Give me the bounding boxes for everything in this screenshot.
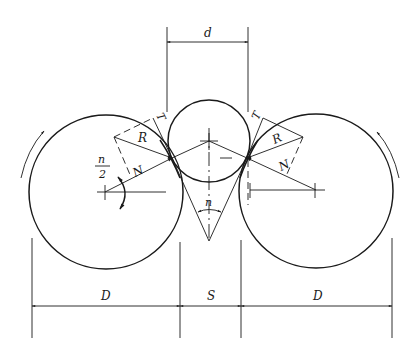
rotation-arrow-right-icon <box>377 132 399 178</box>
center-to-contact-lines <box>172 141 247 158</box>
label-n-half-num: n <box>98 153 105 166</box>
label-R-left: R <box>137 131 147 145</box>
label-D-left: D <box>100 289 111 303</box>
angle-n: n <box>198 196 221 212</box>
label-D-right: D <box>312 289 323 303</box>
label-N-right: N <box>276 157 293 175</box>
label-n: n <box>205 196 212 209</box>
bottom-dimensions: D S D <box>32 238 392 338</box>
dimension-d: d <box>167 26 248 42</box>
right-roll <box>239 114 393 268</box>
label-S: S <box>207 289 215 303</box>
label-d: d <box>204 26 212 40</box>
label-n-half-den: 2 <box>98 168 106 181</box>
half-angle: n 2 <box>95 153 125 209</box>
roller-force-diagram: d D S D n n 2 R N T R N T <box>0 0 420 357</box>
label-T-left: T <box>153 111 169 125</box>
